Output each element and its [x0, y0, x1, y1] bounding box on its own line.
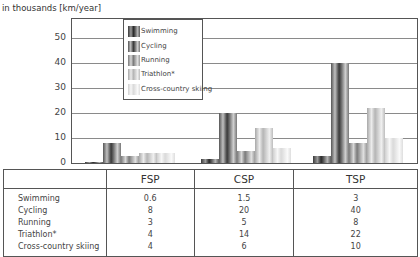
- row-label: Running: [4, 217, 107, 229]
- table-header-fsp: FSP: [106, 170, 194, 189]
- legend-label: Triathlon*: [141, 70, 175, 78]
- bar-fsp-cross-country-skiing: [157, 153, 175, 163]
- y-tick-20: 20: [36, 107, 66, 117]
- cell-tsp: 3: [294, 189, 418, 206]
- legend-item-triathlon: Triathlon*: [128, 68, 175, 80]
- row-label: Swimming: [4, 189, 107, 206]
- cell-fsp: 4: [106, 229, 194, 241]
- row-label: Triathlon*: [4, 229, 107, 241]
- cell-csp: 1.5: [194, 189, 294, 206]
- legend-item-cross-country-skiing: Cross-country skiing: [128, 83, 212, 95]
- bar-fsp-running: [121, 156, 139, 164]
- table-header-row: FSP CSP TSP: [4, 170, 418, 189]
- bar-tsp-triathlon: [367, 108, 385, 163]
- legend: Swimming Cycling Running Triathlon* Cros…: [123, 19, 203, 100]
- bar-csp-running: [237, 151, 255, 164]
- table-header-tsp: TSP: [294, 170, 418, 189]
- bar-tsp-swimming: [313, 156, 331, 164]
- y-axis-unit-label: in thousands [km/year]: [2, 3, 101, 13]
- cell-tsp: 10: [294, 241, 418, 257]
- row-label: Cycling: [4, 205, 107, 217]
- legend-label: Swimming: [141, 27, 178, 35]
- cell-fsp: 3: [106, 217, 194, 229]
- cell-tsp: 22: [294, 229, 418, 241]
- legend-item-swimming: Swimming: [128, 25, 178, 37]
- bar-fsp-triathlon: [139, 153, 157, 163]
- bar-csp-cycling: [219, 113, 237, 163]
- cell-csp: 5: [194, 217, 294, 229]
- table-row: Cross-country skiing 4 6 10: [4, 241, 418, 257]
- table-row: Triathlon* 4 14 22: [4, 229, 418, 241]
- y-tick-40: 40: [36, 57, 66, 67]
- legend-label: Running: [141, 56, 170, 64]
- legend-item-cycling: Cycling: [128, 40, 167, 52]
- cell-tsp: 40: [294, 205, 418, 217]
- table-row: Cycling 8 20 40: [4, 205, 418, 217]
- gridline-20: [72, 113, 417, 114]
- cell-fsp: 4: [106, 241, 194, 257]
- bar-fsp-cycling: [103, 143, 121, 163]
- legend-item-running: Running: [128, 54, 170, 66]
- bar-csp-cross-country-skiing: [273, 148, 291, 163]
- y-tick-50: 50: [36, 32, 66, 42]
- legend-swatch-running: [128, 55, 140, 66]
- legend-swatch-cross-country-skiing: [128, 84, 140, 95]
- legend-label: Cycling: [141, 42, 167, 50]
- legend-swatch-triathlon: [128, 69, 140, 80]
- table-header-empty: [4, 170, 107, 189]
- bar-tsp-cross-country-skiing: [385, 138, 403, 163]
- table-row: Swimming 0.6 1.5 3: [4, 189, 418, 206]
- table-header-csp: CSP: [194, 170, 294, 189]
- gridline-10: [72, 138, 417, 139]
- cell-csp: 20: [194, 205, 294, 217]
- cell-csp: 6: [194, 241, 294, 257]
- legend-swatch-cycling: [128, 41, 140, 52]
- cell-csp: 14: [194, 229, 294, 241]
- data-table: FSP CSP TSP Swimming 0.6 1.5 3 Cycling 8…: [3, 169, 418, 257]
- y-tick-30: 30: [36, 82, 66, 92]
- legend-label: Cross-country skiing: [141, 85, 212, 93]
- bar-tsp-cycling: [331, 63, 349, 163]
- bar-csp-triathlon: [255, 128, 273, 163]
- y-tick-0: 0: [36, 157, 66, 167]
- x-axis-baseline: [71, 163, 418, 164]
- cell-fsp: 0.6: [106, 189, 194, 206]
- cell-fsp: 8: [106, 205, 194, 217]
- bar-tsp-running: [349, 143, 367, 163]
- legend-swatch-swimming: [128, 26, 140, 37]
- y-tick-10: 10: [36, 132, 66, 142]
- table-row: Running 3 5 8: [4, 217, 418, 229]
- row-label: Cross-country skiing: [4, 241, 107, 257]
- cell-tsp: 8: [294, 217, 418, 229]
